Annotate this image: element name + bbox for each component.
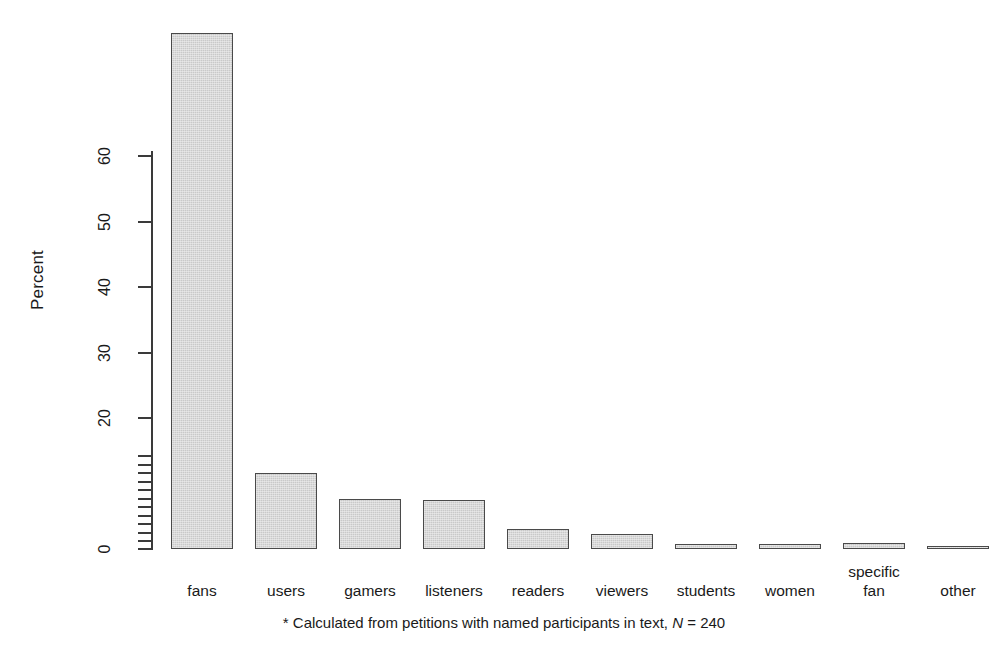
y-tick-major xyxy=(138,417,151,419)
footnote-n-value: = 240 xyxy=(683,614,725,631)
y-axis-spine xyxy=(151,151,153,550)
bar xyxy=(339,499,401,549)
bar xyxy=(843,543,905,549)
bar xyxy=(507,529,569,549)
y-tick-minor xyxy=(138,489,151,491)
y-axis-title: Percent xyxy=(18,0,58,560)
y-tick-label: 20 xyxy=(82,408,128,428)
y-tick-label: 50 xyxy=(82,212,128,232)
y-tick-label-text: 20 xyxy=(95,409,115,427)
y-tick-label-text: 30 xyxy=(95,344,115,362)
y-tick-label-text: 50 xyxy=(95,213,115,231)
y-tick-label-text: 40 xyxy=(95,278,115,296)
y-axis-title-text: Percent xyxy=(28,250,48,310)
bar xyxy=(423,500,485,549)
bar-chart-figure: Percent 02030405060 fansusersgamersliste… xyxy=(0,0,1008,663)
bar xyxy=(171,33,233,549)
y-tick-minor xyxy=(138,472,151,474)
y-tick-major xyxy=(138,548,151,550)
y-tick-minor xyxy=(138,498,151,500)
x-axis-label: listeners xyxy=(412,581,496,600)
y-tick-label: 40 xyxy=(82,277,128,297)
bar xyxy=(591,534,653,549)
bar xyxy=(255,473,317,549)
x-axis-label: students xyxy=(664,581,748,600)
y-tick-major xyxy=(138,221,151,223)
x-axis-label: viewers xyxy=(580,581,664,600)
footnote: * Calculated from petitions with named p… xyxy=(0,614,1008,631)
y-tick-label: 0 xyxy=(82,539,128,559)
x-axis-label: users xyxy=(244,581,328,600)
y-tick-label: 60 xyxy=(82,146,128,166)
y-tick-label: 30 xyxy=(82,343,128,363)
y-tick-minor xyxy=(138,540,151,542)
y-tick-minor xyxy=(138,532,151,534)
y-tick-minor xyxy=(138,523,151,525)
y-tick-major xyxy=(138,286,151,288)
x-axis-label: women xyxy=(748,581,832,600)
y-tick-minor xyxy=(138,481,151,483)
bar xyxy=(927,546,989,549)
y-tick-major xyxy=(138,155,151,157)
x-axis-label: fans xyxy=(160,581,244,600)
x-axis-label: gamers xyxy=(328,581,412,600)
y-tick-label-text: 0 xyxy=(95,545,115,554)
bar xyxy=(759,544,821,549)
y-tick-minor xyxy=(138,455,151,457)
y-tick-minor xyxy=(138,506,151,508)
x-axis-label: other xyxy=(916,581,1000,600)
y-tick-major xyxy=(138,352,151,354)
bar xyxy=(675,544,737,549)
footnote-n-symbol: N xyxy=(672,614,683,631)
y-tick-label-text: 60 xyxy=(95,147,115,165)
y-tick-minor xyxy=(138,464,151,466)
footnote-text: Calculated from petitions with named par… xyxy=(289,614,673,631)
y-tick-minor xyxy=(138,515,151,517)
x-axis-label: specific fan xyxy=(832,562,916,600)
x-axis-label: readers xyxy=(496,581,580,600)
